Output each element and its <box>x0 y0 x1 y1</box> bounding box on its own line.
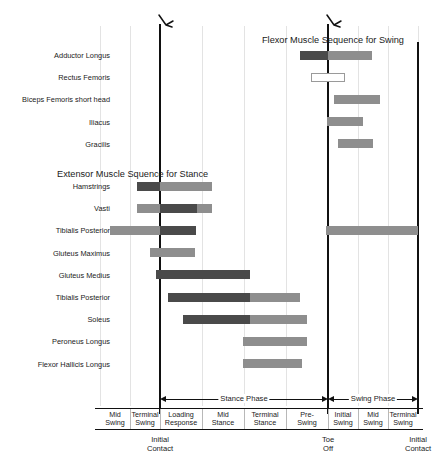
gait-event-label-line2: Off <box>288 444 368 453</box>
phase-tick-label: TerminalSwing <box>388 411 418 428</box>
phase-tick-label-line2: Swing <box>358 419 388 427</box>
activity-bar <box>183 315 250 324</box>
gridline <box>202 26 203 406</box>
activity-bar <box>150 248 195 257</box>
phase-tick-label-line2: Stance <box>202 419 244 427</box>
muscle-label: Gluteus Medius <box>0 271 110 280</box>
phase-tick-label: MidSwing <box>358 411 388 428</box>
activity-bar <box>110 226 160 235</box>
activity-bar <box>137 204 160 213</box>
phase-band-arrow: Swing Phase <box>328 395 418 404</box>
phase-tick-label: LoadingResponse <box>160 411 202 428</box>
phase-tick-label-line2: Swing <box>130 419 160 427</box>
gridline <box>388 26 389 406</box>
section-title-flexor: Flexor Muscle Sequence for Swing <box>262 35 404 45</box>
muscle-label: Biceps Femoris short head <box>0 95 110 104</box>
phase-band-label: Swing Phase <box>349 394 397 403</box>
heel-strike-glyph <box>325 14 347 34</box>
activity-bar <box>160 182 212 191</box>
muscle-label: Tibialis Posterior <box>0 226 110 235</box>
phase-tick-label-line2: Swing <box>388 419 418 427</box>
activity-bar <box>334 95 380 104</box>
gait-muscle-activity-chart: Adductor LongusRectus FemorisBiceps Femo… <box>0 0 436 470</box>
gait-event-label-line1: Toe <box>288 435 368 444</box>
phase-tick-label-line2: Response <box>160 419 202 427</box>
gait-event-label-line2: Contact <box>378 444 436 453</box>
activity-bar <box>250 315 307 324</box>
muscle-label: Adductor Longus <box>0 51 110 60</box>
muscle-label: Gluteus Maximus <box>0 249 110 258</box>
phase-tick-label: MidSwing <box>100 411 130 428</box>
activity-bar <box>326 226 418 235</box>
muscle-label: Rectus Femoris <box>0 73 110 82</box>
activity-bar <box>243 359 302 368</box>
muscle-label: Hamstrings <box>0 182 110 191</box>
event-vertical-line <box>327 24 329 414</box>
gridline <box>244 26 245 406</box>
phase-tick-label: MidStance <box>202 411 244 428</box>
phase-tick-label-line2: Swing <box>328 419 358 427</box>
gait-event-label-line1: Initial <box>378 435 436 444</box>
muscle-label: Tibialis Posterior <box>0 293 110 302</box>
muscle-label: Soleus <box>0 315 110 324</box>
muscle-label: Vasti <box>0 204 110 213</box>
section-title-extensor: Extensor Muscle Squence for Stance <box>57 169 208 179</box>
phase-tick-label: TerminalSwing <box>130 411 160 428</box>
gait-event-label: InitialContact <box>378 435 436 453</box>
activity-bar <box>160 204 197 213</box>
gait-event-label: InitialContact <box>120 435 200 453</box>
gait-event-label-line1: Initial <box>120 435 200 444</box>
phase-band-arrow: Stance Phase <box>160 395 328 404</box>
axis-baseline-lower <box>95 429 423 430</box>
activity-bar <box>168 293 250 302</box>
activity-bar <box>328 51 372 60</box>
gait-event-label: ToeOff <box>288 435 368 453</box>
muscle-label: Peroneus Longus <box>0 337 110 346</box>
muscle-label: Gracilis <box>0 140 110 149</box>
muscle-label: Flexor Hallicis Longus <box>0 360 110 369</box>
activity-bar <box>338 139 373 148</box>
phase-tick-label: Pre-Swing <box>286 411 328 428</box>
phase-tick-label-line2: Stance <box>244 419 286 427</box>
gridline <box>286 26 287 406</box>
activity-bar <box>327 117 363 126</box>
activity-bar <box>243 337 307 346</box>
activity-bar <box>197 204 212 213</box>
gait-event-label-line2: Contact <box>120 444 200 453</box>
activity-bar <box>311 73 345 82</box>
phase-tick-label-line2: Swing <box>286 419 328 427</box>
activity-bar <box>137 182 160 191</box>
activity-bar <box>250 293 300 302</box>
activity-bar <box>300 51 328 60</box>
gridline <box>100 26 101 406</box>
phase-tick-label: TerminalStance <box>244 411 286 428</box>
heel-strike-glyph <box>157 14 179 34</box>
phase-tick-label: InitialSwing <box>328 411 358 428</box>
activity-bar <box>160 226 196 235</box>
phase-tick-label-line2: Swing <box>100 419 130 427</box>
activity-bar <box>156 270 250 279</box>
phase-band-label: Stance Phase <box>218 394 269 403</box>
gridline <box>358 26 359 406</box>
muscle-label: Iliacus <box>0 118 110 127</box>
event-vertical-line <box>159 24 161 414</box>
gridline <box>130 26 131 406</box>
